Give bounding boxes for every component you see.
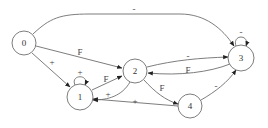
edge-0-1: +: [32, 53, 70, 87]
edge-label-0-3: -: [133, 4, 136, 14]
edge-3-3-loop: -: [235, 27, 246, 46]
edge-label-0-2: F: [77, 47, 82, 57]
edge-0-3: -: [33, 4, 234, 46]
node-label-3: 3: [239, 53, 244, 63]
node-label-1: 1: [78, 92, 83, 102]
node-0: 0: [12, 31, 36, 55]
node-label-0: 0: [22, 38, 27, 48]
edge-label-2-4: F: [159, 83, 164, 93]
edge-label-3-2: F: [185, 65, 190, 75]
edge-label-2-3: -: [187, 51, 190, 61]
edge-1-2: F: [92, 74, 122, 90]
node-3: 3: [228, 45, 254, 71]
edge-2-4: F: [144, 80, 178, 104]
node-1: 1: [67, 84, 93, 110]
edge-1-1-loop: +: [74, 67, 86, 85]
node-2: 2: [123, 59, 147, 83]
edge-label-2-1: +: [105, 89, 110, 99]
node-4: 4: [178, 94, 202, 118]
edge-4-3: -: [201, 70, 236, 100]
edge-label-4-3: -: [215, 81, 218, 91]
edge-2-1: +: [93, 82, 130, 100]
edge-label-0-1: +: [49, 57, 54, 67]
edge-label-4-1: +: [132, 96, 137, 106]
edge-label-1-1: +: [77, 67, 82, 77]
edge-3-2: F: [148, 64, 230, 75]
node-label-4: 4: [188, 101, 193, 111]
node-label-2: 2: [133, 66, 138, 76]
edge-label-3-3: -: [240, 27, 243, 37]
edge-label-1-2: F: [103, 74, 108, 84]
state-diagram: - F + + F + - F F + - -: [0, 0, 268, 128]
